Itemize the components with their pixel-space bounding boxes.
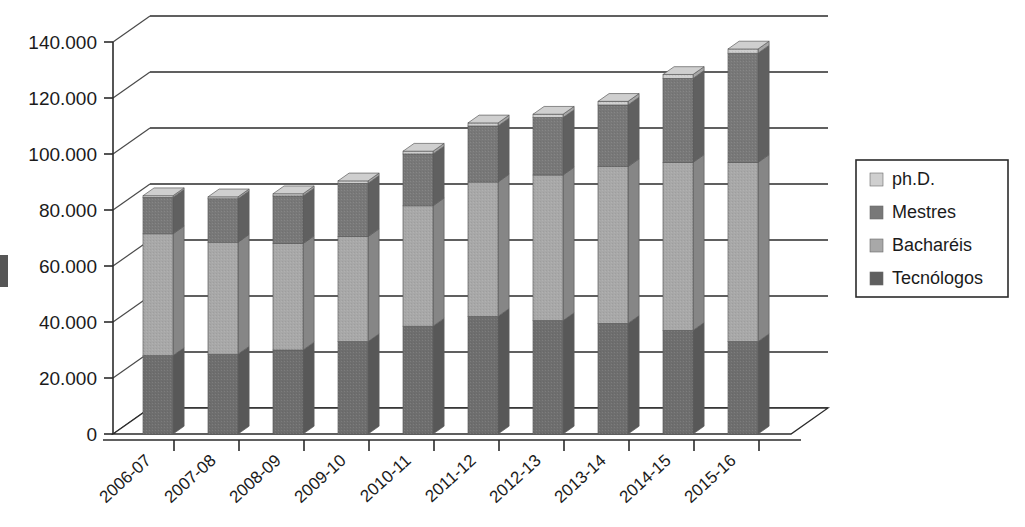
legend-swatch <box>870 173 883 186</box>
bar-group <box>533 106 574 434</box>
bar-segment-side <box>563 167 574 320</box>
bar-segment-side <box>433 198 444 326</box>
bar-group <box>468 115 509 434</box>
bar-segment-texture <box>533 114 563 117</box>
bar-segment-texture <box>468 182 498 316</box>
bar-segment-texture <box>468 123 498 126</box>
y-axis-tick-label: 40.000 <box>39 312 97 333</box>
legend-label: Mestres <box>892 202 956 222</box>
bar-segment-texture <box>728 342 758 434</box>
bar-segment-texture <box>338 237 368 342</box>
bar-segment-texture <box>533 321 563 434</box>
bar-segment-side <box>238 234 249 354</box>
bar-segment-texture <box>403 326 433 434</box>
bar-segment-texture <box>663 78 693 162</box>
bar-segment-texture <box>598 105 628 167</box>
bar-segment-side <box>628 97 639 166</box>
bar-segment-texture <box>663 74 693 78</box>
bar-segment-texture <box>403 206 433 326</box>
legend-label: ph.D. <box>892 169 935 189</box>
bar-segment-texture <box>273 350 303 434</box>
bar-segment-side <box>303 342 314 434</box>
bar-segment-texture <box>663 330 693 434</box>
bar-segment-side <box>433 318 444 434</box>
bar-group <box>208 189 249 434</box>
bar-segment-side <box>758 334 769 434</box>
bar-segment-texture <box>208 199 238 242</box>
bar-segment-texture <box>728 49 758 53</box>
legend: ph.D.MestresBacharéisTecnólogos <box>856 160 1008 297</box>
bar-segment-side <box>693 323 704 434</box>
bar-segment-side <box>433 146 444 206</box>
bar-segment-texture <box>403 151 433 154</box>
bar-group <box>338 173 379 434</box>
bar-segment-side <box>758 45 769 162</box>
bar-segment-side <box>303 236 314 350</box>
bar-segment-texture <box>468 316 498 434</box>
legend-swatch <box>870 239 883 252</box>
bar-segment-side <box>758 155 769 342</box>
bar-segment-side <box>303 188 314 243</box>
bar-segment-side <box>498 309 509 434</box>
bar-segment-texture <box>598 101 628 105</box>
y-axis-tick-label: 120.000 <box>28 88 97 109</box>
legend-swatch <box>870 206 883 219</box>
bar-segment-texture <box>468 126 498 182</box>
bar-segment-texture <box>403 154 433 206</box>
bar-group <box>273 186 314 434</box>
y-axis-tick-label: 100.000 <box>28 144 97 165</box>
bar-segment-texture <box>598 167 628 324</box>
bar-segment-side <box>238 346 249 434</box>
y-axis-tick-label: 20.000 <box>39 368 97 389</box>
bar-segment-side <box>563 313 574 434</box>
bar-group <box>728 41 769 434</box>
y-axis-tick-label: 140.000 <box>28 32 97 53</box>
bar-segment-texture <box>338 183 368 236</box>
legend-label: Tecnólogos <box>892 268 983 288</box>
stacked-bar-chart: 020.00040.00060.00080.000100.000120.0001… <box>0 0 1025 527</box>
bar-segment-side <box>238 191 249 242</box>
bar-group <box>598 94 639 434</box>
bar-group <box>403 143 444 434</box>
chart-container: 020.00040.00060.00080.000100.000120.0001… <box>0 0 1025 527</box>
bar-segment-texture <box>338 342 368 434</box>
bar-segment-texture <box>208 242 238 354</box>
bar-segment-side <box>368 334 379 434</box>
bar-segment-side <box>498 118 509 182</box>
bar-segment-side <box>368 176 379 237</box>
bar-segment-texture <box>208 354 238 434</box>
bar-segment-side <box>498 174 509 316</box>
bar-segment-texture <box>533 175 563 321</box>
y-axis-tick-label: 60.000 <box>39 256 97 277</box>
bar-segment-texture <box>338 181 368 184</box>
bar-segment-texture <box>143 356 173 434</box>
bar-segment-texture <box>598 323 628 434</box>
bar-segment-texture <box>728 53 758 162</box>
bar-segment-texture <box>273 244 303 350</box>
bar-group <box>143 188 184 434</box>
bar-segment-side <box>368 229 379 342</box>
bar-segment-side <box>693 71 704 163</box>
bar-segment-side <box>173 348 184 434</box>
legend-label: Bacharéis <box>892 235 972 255</box>
bar-segment-texture <box>728 162 758 341</box>
bar-group <box>663 67 704 434</box>
bar-segment-texture <box>663 162 693 330</box>
bar-segment-texture <box>533 118 563 175</box>
bar-segment-texture <box>273 196 303 244</box>
bar-segment-side <box>563 110 574 175</box>
bar-segment-side <box>693 155 704 331</box>
scan-edge-artifact <box>0 255 8 287</box>
bar-segment-side <box>628 159 639 324</box>
y-axis-tick-label: 80.000 <box>39 200 97 221</box>
bar-segment-texture <box>143 197 173 233</box>
bar-segment-side <box>173 226 184 356</box>
legend-swatch <box>870 272 883 285</box>
bar-segment-side <box>628 316 639 434</box>
bar-segment-texture <box>143 234 173 356</box>
y-axis-tick-label: 0 <box>86 424 97 445</box>
